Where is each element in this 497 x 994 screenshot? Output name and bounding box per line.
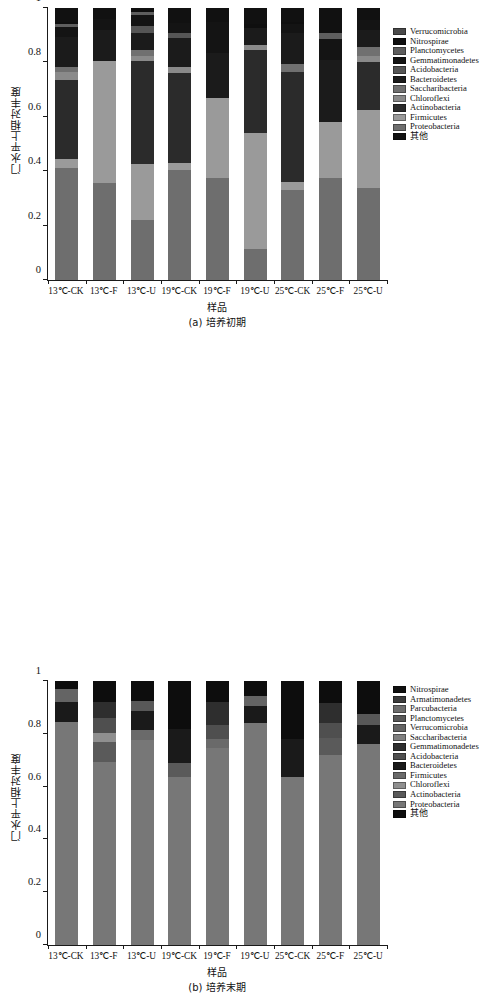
x-axis-title-b: 样品 [47,964,387,979]
bar-segment [131,61,154,164]
y-axis-tick-label: 0.4 [28,824,41,834]
bar-segment [244,133,267,249]
x-axis-tick [161,280,162,284]
legend-swatch-icon [393,114,406,121]
y-axis-tick [43,170,48,171]
bar-group-b [48,681,387,945]
legend-swatch-icon [393,85,406,92]
bar-segment [206,98,229,178]
stacked-bar [244,8,267,280]
bar-segment [206,748,229,945]
plot-area-b: 10.80.60.40.20 [47,681,387,946]
legend-swatch-icon [393,724,406,731]
stacked-bar [319,681,342,945]
bar-segment [206,725,229,740]
bar-segment [357,56,380,63]
x-axis-tick [274,280,275,284]
stacked-bar [281,8,304,280]
legend-swatch-icon [393,124,406,131]
plot-area-a: 10.80.60.40.20 [47,8,387,281]
x-axis-tick-label: 19℃-F [198,950,236,961]
bar-segment [93,733,116,742]
stacked-bar [93,681,116,945]
bar-segment [93,61,116,183]
bar-segment [131,730,154,741]
bar-group-a [48,8,387,280]
bar-segment [206,739,229,748]
bar-segment [281,182,304,190]
bar-segment [319,8,342,32]
bar-segment [131,681,154,701]
x-axis-tick-label: 13℃-CK [47,285,85,296]
y-axis-tick-label: 0.6 [28,772,41,782]
x-axis-tick [349,280,350,284]
bar-segment [131,701,154,712]
panel-b: 门水平上相对丰度 10.80.60.40.20 13℃-CK13℃-F13℃-U… [0,333,497,666]
bar-segment [357,47,380,55]
bar-segment [93,183,116,280]
y-axis-tick-label: 0.2 [28,877,41,887]
bar-segment [281,8,304,22]
x-axis-tick [387,280,388,284]
bar-segment [131,164,154,220]
bar-segment [319,122,342,178]
bar-segment [93,762,116,945]
y-axis-tick-label: 0.8 [28,47,41,57]
y-axis-tick [43,733,48,734]
legend-swatch-icon [393,28,406,35]
bar-segment [357,30,380,48]
bar-segment [319,703,342,723]
stacked-bar [281,681,304,945]
x-axis-tick-label: 25℃-CK [274,285,312,296]
stacked-bar [55,681,78,945]
y-axis-title-a: 门水平上相对丰度 [8,86,23,174]
y-axis-tick-label: 0.2 [28,211,41,221]
bar-segment [131,711,154,729]
y-axis-tick-label: 0.4 [28,156,41,166]
bar-segment [357,8,380,20]
bar-segment [55,37,78,67]
bar-segment [357,20,380,30]
y-axis-tick [43,7,48,8]
bar-segment [55,681,78,689]
x-axis-tick [312,280,313,284]
bar-segment [319,33,342,40]
stacked-bar [206,8,229,280]
legend-a: VerrucomicrobiaNitrospiraePlanctomycetes… [393,27,479,142]
y-axis-tick [43,225,48,226]
legend-swatch-icon [393,782,406,789]
bar-segment [93,30,116,61]
bar-segment [281,33,304,64]
y-axis-tick-label: 1 [36,666,41,676]
stacked-bar [357,8,380,280]
legend-item: 其他 [393,132,479,142]
legend-swatch-icon [393,762,406,769]
x-axis-tick-label: 25℃-F [311,950,349,961]
bar-segment [244,706,267,723]
legend-swatch-icon [393,753,406,760]
bar-segment [168,729,191,763]
x-axis-tick [349,945,350,949]
bar-segment [244,696,267,707]
bar-segment [168,170,191,280]
x-axis-tick [161,945,162,949]
x-axis-tick-label: 25℃-U [349,950,387,961]
panel-a: 门水平上相对丰度 10.80.60.40.20 13℃-CK13℃-F13℃-U… [0,0,497,333]
bar-segment [93,718,116,733]
x-axis-tick [274,945,275,949]
x-axis-tick [86,945,87,949]
y-axis-title-b: 门水平上相对丰度 [8,753,23,841]
bar-segment [244,249,267,280]
bar-segment [168,67,191,74]
bar-segment [168,23,191,33]
stacked-bar [168,8,191,280]
legend-swatch-icon [393,810,406,817]
x-axis-tick-label: 25℃-F [311,285,349,296]
x-axis-tick-label: 13℃-U [123,285,161,296]
y-axis-tick [43,838,48,839]
legend-swatch-icon [393,801,406,808]
legend-label: 其他 [410,132,428,142]
y-axis-tick-label: 0 [36,265,41,275]
bar-segment [244,28,267,44]
bar-segment [357,714,380,725]
